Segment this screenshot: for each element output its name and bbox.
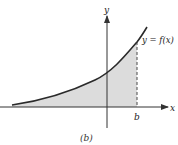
bound-label-b: b [134, 112, 140, 122]
x-axis-label: x [170, 103, 175, 113]
integral-area-diagram: y x b y = f(x) (b) [0, 0, 178, 145]
y-axis-label: y [103, 5, 110, 15]
figure-caption: (b) [80, 133, 93, 143]
curve-label: y = f(x) [141, 35, 174, 45]
shaded-region [12, 42, 137, 107]
